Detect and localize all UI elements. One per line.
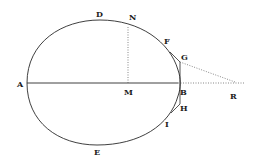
label-f: F — [164, 36, 170, 46]
line-gr — [180, 62, 235, 82]
oval-curve — [27, 20, 180, 145]
diagram-canvas: D N F G A M B R H I E — [0, 0, 260, 162]
label-b: B — [180, 87, 187, 97]
label-i: I — [165, 119, 169, 129]
label-e: E — [94, 147, 100, 157]
label-h: H — [180, 103, 188, 113]
label-a: A — [16, 79, 24, 89]
label-n: N — [129, 12, 136, 22]
label-d: D — [96, 9, 103, 19]
label-g: G — [181, 52, 188, 62]
label-m: M — [124, 87, 133, 97]
label-r: R — [230, 91, 237, 101]
